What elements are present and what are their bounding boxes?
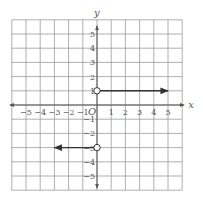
axes — [10, 26, 184, 188]
coordinate-plane: −5−4−3−2−11234554321−1−2−3−4−5 x y O — [0, 0, 203, 199]
origin-label: O — [88, 106, 96, 117]
x-tick-label: 1 — [109, 108, 114, 117]
open-point — [94, 88, 100, 94]
y-tick-label: −4 — [83, 158, 95, 167]
x-axis-label: x — [188, 99, 194, 110]
y-tick-label: 5 — [90, 30, 95, 39]
x-tick-label: −5 — [20, 108, 32, 117]
y-axis-label: y — [93, 7, 100, 18]
x-tick-label: −2 — [63, 108, 75, 117]
y-tick-label: 3 — [90, 58, 95, 67]
y-tick-label: 4 — [90, 44, 95, 53]
y-tick-label: −5 — [83, 172, 95, 181]
open-point — [94, 144, 100, 150]
x-tick-label: −4 — [34, 108, 46, 117]
y-tick-label: 2 — [90, 73, 95, 82]
x-tick-label: 3 — [137, 108, 142, 117]
x-tick-label: 5 — [165, 108, 170, 117]
y-tick-label: −2 — [83, 129, 95, 138]
x-tick-label: 4 — [151, 108, 156, 117]
x-tick-label: −3 — [49, 108, 61, 117]
x-tick-label: 2 — [123, 108, 128, 117]
